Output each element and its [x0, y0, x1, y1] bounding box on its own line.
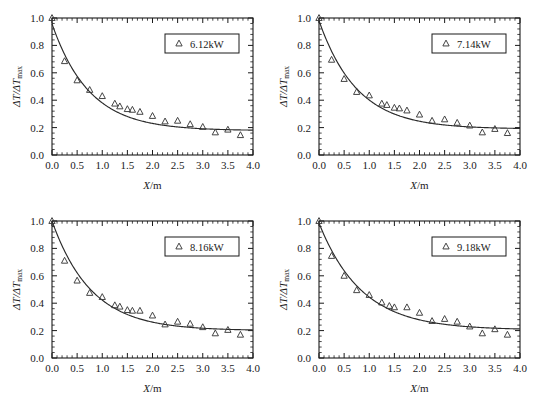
y-tick-label: 0.4 [30, 94, 44, 106]
data-point-marker [149, 113, 155, 119]
data-point-marker [467, 323, 473, 329]
y-axis-title-symbol: ΔT/ΔT [10, 281, 22, 311]
data-point-marker [441, 116, 447, 122]
y-tick-label: 0.2 [30, 325, 44, 337]
y-tick-label: 0.6 [30, 270, 44, 282]
data-point-marker [149, 312, 155, 318]
x-axis-title: X/m [409, 382, 429, 394]
y-tick-label: 0.8 [297, 39, 311, 51]
y-axis-title-symbol: ΔT/ΔT [10, 78, 22, 108]
x-tick-label: 1.0 [95, 362, 109, 374]
y-tick-label: 0.8 [30, 39, 44, 51]
data-point-marker [386, 303, 392, 309]
x-axis-title: X/m [409, 179, 429, 191]
y-axis-title-symbol: ΔT/ΔT [277, 78, 289, 108]
data-point-marker [129, 106, 135, 112]
x-tick-label: 4.0 [513, 362, 527, 374]
x-tick-label: 2.5 [438, 159, 452, 171]
data-point-marker [99, 294, 105, 300]
data-point-marker [391, 104, 397, 110]
x-axis-title-unit: /m [417, 179, 429, 191]
x-tick-label: 3.5 [488, 362, 502, 374]
y-tick-label: 0.4 [297, 297, 311, 309]
x-tick-label: 3.5 [221, 362, 235, 374]
data-point-marker [366, 92, 372, 98]
x-tick-label: 4.0 [246, 362, 260, 374]
x-tick-label: 2.5 [438, 362, 452, 374]
y-tick-label: 1.0 [297, 12, 311, 24]
data-series [49, 15, 244, 138]
data-point-marker [112, 100, 118, 106]
y-tick-label: 0.0 [297, 352, 311, 364]
y-tick-label: 0.6 [30, 67, 44, 79]
data-point-marker [174, 117, 180, 123]
x-tick-label: 1.5 [388, 159, 402, 171]
x-tick-label: 0.0 [312, 159, 326, 171]
y-axis-title-subscript: max [282, 66, 291, 79]
data-point-marker [187, 121, 193, 127]
x-tick-label: 2.0 [146, 159, 160, 171]
x-tick-label: 1.0 [95, 159, 109, 171]
data-point-marker [74, 277, 80, 283]
y-tick-label: 0.0 [297, 149, 311, 161]
y-tick-label: 0.2 [297, 325, 311, 337]
plot-area-1: 0.00.51.01.52.02.53.03.54.00.00.20.40.60… [0, 0, 267, 203]
y-tick-label: 0.0 [30, 149, 44, 161]
data-point-marker [404, 304, 410, 310]
data-point-marker [396, 105, 402, 111]
x-tick-label: 1.5 [121, 362, 135, 374]
x-tick-label: 3.0 [463, 159, 477, 171]
y-tick-label: 0.4 [297, 94, 311, 106]
y-tick-label: 0.8 [297, 242, 311, 254]
chart-panel-3: 0.00.51.01.52.02.53.03.54.00.00.20.40.60… [0, 203, 267, 406]
data-point-marker [454, 318, 460, 324]
y-tick-label: 0.8 [30, 242, 44, 254]
y-tick-label: 1.0 [30, 215, 44, 227]
y-axis-title-subscript: max [15, 269, 24, 282]
y-tick-label: 0.2 [297, 122, 311, 134]
x-tick-label: 0.5 [70, 362, 84, 374]
x-tick-label: 0.0 [45, 362, 59, 374]
data-point-marker [379, 299, 385, 305]
x-tick-label: 1.5 [121, 159, 135, 171]
data-point-marker [162, 118, 168, 124]
data-series [316, 218, 511, 338]
x-tick-label: 0.0 [312, 362, 326, 374]
data-point-marker [212, 330, 218, 336]
data-point-marker [454, 119, 460, 125]
plot-area-3: 0.00.51.01.52.02.53.03.54.00.00.20.40.60… [0, 203, 267, 406]
x-axis-title-unit: /m [150, 382, 162, 394]
data-point-marker [124, 106, 130, 112]
x-axis-title: X/m [142, 179, 162, 191]
y-tick-label: 0.4 [30, 297, 44, 309]
y-tick-label: 0.6 [297, 270, 311, 282]
data-point-marker [174, 318, 180, 324]
data-point-marker [429, 117, 435, 123]
y-axis-title-symbol: ΔT/ΔT [277, 281, 289, 311]
x-tick-label: 1.0 [362, 159, 376, 171]
data-point-marker [404, 107, 410, 113]
data-point-marker [416, 309, 422, 315]
x-tick-label: 2.5 [171, 159, 185, 171]
data-series [49, 218, 244, 338]
legend-label: 7.14kW [457, 39, 491, 50]
data-point-marker [237, 331, 243, 337]
plot-area-2: 0.00.51.01.52.02.53.03.54.00.00.20.40.60… [267, 0, 534, 203]
y-axis-title: ΔT/ΔTmax [10, 269, 24, 311]
x-axis-title-unit: /m [150, 179, 162, 191]
y-tick-label: 1.0 [297, 215, 311, 227]
data-point-marker [61, 257, 67, 263]
chart-panel-1: 0.00.51.01.52.02.53.03.54.00.00.20.40.60… [0, 0, 267, 203]
x-tick-label: 3.5 [221, 159, 235, 171]
x-tick-label: 4.0 [513, 159, 527, 171]
x-tick-label: 0.0 [45, 159, 59, 171]
x-tick-label: 4.0 [246, 159, 260, 171]
y-tick-label: 0.2 [30, 122, 44, 134]
data-point-marker [237, 132, 243, 138]
y-axis-title: ΔT/ΔTmax [10, 66, 24, 108]
x-tick-label: 0.5 [70, 159, 84, 171]
data-point-marker [479, 129, 485, 135]
y-tick-label: 1.0 [30, 12, 44, 24]
x-tick-label: 3.0 [196, 362, 210, 374]
data-point-marker [112, 302, 118, 308]
